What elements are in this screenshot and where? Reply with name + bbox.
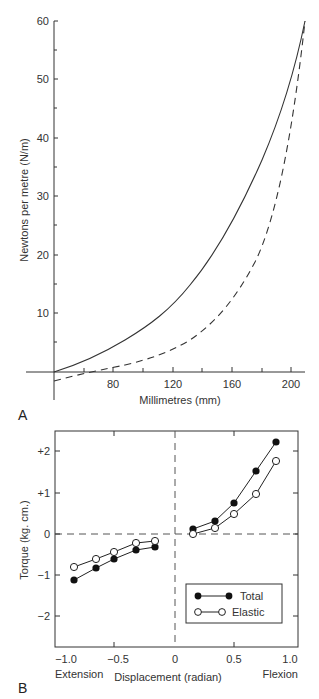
legend: Total Elastic: [186, 584, 282, 623]
panel-a-y-tick-30: 30: [37, 190, 49, 202]
panel-a-y-tick-20: 20: [37, 249, 49, 261]
panel-b-x-tick-1: 1.0: [282, 653, 297, 665]
panel-a-x-axis-label: Millimetres (mm): [139, 394, 220, 406]
panel-b-y-tick-minus1: −1: [37, 569, 50, 581]
panel-a-label: A: [18, 407, 28, 423]
panel-a-y-tick-40: 40: [37, 132, 49, 144]
panel-b-x-axis-label-visible: Displacement (radian): [114, 671, 222, 683]
panel-a-y-ticks: [54, 21, 58, 342]
panel-a-x-tick-160: 160: [223, 378, 241, 390]
filled-circle-icon: [195, 593, 202, 600]
panel-b-y-axis-label: Torque (kg. cm.): [18, 500, 30, 579]
panel-b-y-tick-plus2: +2: [37, 445, 50, 457]
panel-b-flexion-label: Flexion: [263, 668, 298, 680]
legend-label-elastic: Elastic: [232, 606, 265, 618]
panel-b-y-tick-minus2: −2: [37, 610, 50, 622]
panel-b-y-tick-plus1: +1: [37, 487, 50, 499]
figure: 60 50 40 30 20 10 80 120 160 200 Millime…: [0, 0, 319, 699]
panel-a-x-tick-80: 80: [107, 378, 119, 390]
panel-b-label: B: [18, 680, 27, 696]
legend-label-total: Total: [240, 590, 263, 602]
panel-a-solid-curve: [54, 21, 305, 372]
open-circle-icon: [219, 609, 226, 616]
panel-a-x-ticks: [84, 367, 291, 372]
filled-circle-icon: [226, 593, 233, 600]
panel-a-y-tick-60: 60: [37, 15, 49, 27]
panel-b-x-tick-minus1: −1.0: [55, 653, 77, 665]
panel-a-dashed-curve: [54, 21, 305, 381]
panel-a-x-tick-120: 120: [164, 378, 182, 390]
open-circle-icon: [195, 609, 202, 616]
panel-a-y-tick-50: 50: [37, 73, 49, 85]
panel-a-y-axis-label: Newtons per metre (N/m): [18, 138, 30, 261]
panel-b-y-tick-0: 0: [44, 528, 50, 540]
panel-b-extension-label: Extension: [55, 668, 103, 680]
panel-b-x-tick-0: 0: [172, 653, 178, 665]
panel-a: 60 50 40 30 20 10 80 120 160 200 Millime…: [18, 15, 305, 423]
panel-a-x-tick-200: 200: [282, 378, 300, 390]
panel-a-y-tick-10: 10: [37, 307, 49, 319]
panel-b-x-tick-05: 0.5: [226, 653, 241, 665]
panel-b: +2 +1 0 −1 −2 −1.0 −0.5 0 0.5 1.0 Extens…: [18, 431, 298, 696]
panel-b-x-tick-minus05: −0.5: [107, 653, 129, 665]
